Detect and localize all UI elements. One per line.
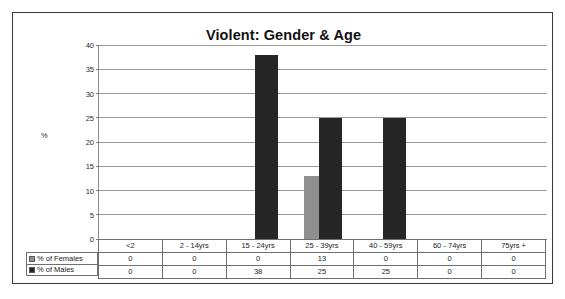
table-col-header-0: <2 (99, 240, 163, 253)
chart-legend: % of Females% of Males (26, 252, 98, 276)
ytick-label-10: 10 (86, 186, 94, 195)
table-cell-r0-c1: 0 (162, 253, 226, 266)
table-row: 00013000 (99, 253, 546, 266)
ytick-label-30: 30 (86, 89, 94, 98)
data-table-grid: <22 - 14yrs15 - 24yrs25 - 39yrs40 - 59yr… (98, 239, 546, 279)
ytick-mark-15 (96, 166, 99, 167)
legend-item-males: % of Males (26, 264, 98, 276)
legend-item-females: % of Females (26, 252, 98, 264)
ytick-mark-5 (96, 214, 99, 215)
table-cell-r1-c2: 38 (226, 266, 290, 279)
plot-inner: 4035302520151050 (99, 45, 546, 239)
gridline-35 (99, 69, 547, 70)
ytick-label-20: 20 (86, 138, 94, 147)
table-col-header-3: 25 - 39yrs (290, 240, 354, 253)
bar-male-4 (383, 118, 406, 239)
table-cell-r0-c3: 13 (290, 253, 354, 266)
ytick-mark-10 (96, 190, 99, 191)
table-row: 0038252500 (99, 266, 546, 279)
table-col-header-5: 60 - 74yrs (418, 240, 482, 253)
ytick-label-40: 40 (86, 41, 94, 50)
table-cell-r1-c0: 0 (99, 266, 163, 279)
ytick-mark-20 (96, 142, 99, 143)
bar-male-3 (319, 118, 342, 239)
table-cell-r0-c0: 0 (99, 253, 163, 266)
table-cell-r1-c1: 0 (162, 266, 226, 279)
table-cell-r0-c2: 0 (226, 253, 290, 266)
table-col-header-2: 15 - 24yrs (226, 240, 290, 253)
chart-title: Violent: Gender & Age (13, 27, 554, 43)
table-cell-r0-c6: 0 (482, 253, 546, 266)
gridline-40 (99, 45, 547, 46)
table-col-header-4: 40 - 59yrs (354, 240, 418, 253)
table-cell-r1-c3: 25 (290, 266, 354, 279)
table-cell-r1-c6: 0 (482, 266, 546, 279)
bar-male-2 (255, 55, 278, 239)
legend-label: % of Males (37, 265, 74, 275)
legend-swatch-icon (29, 256, 35, 262)
ytick-label-0: 0 (90, 235, 94, 244)
ytick-mark-30 (96, 93, 99, 94)
table-cell-r0-c5: 0 (418, 253, 482, 266)
ytick-mark-35 (96, 69, 99, 70)
data-table: <22 - 14yrs15 - 24yrs25 - 39yrs40 - 59yr… (98, 239, 546, 279)
legend-swatch-icon (29, 267, 35, 273)
legend-label: % of Females (37, 254, 83, 264)
ytick-label-5: 5 (90, 210, 94, 219)
data-table-body: <22 - 14yrs15 - 24yrs25 - 39yrs40 - 59yr… (99, 240, 546, 279)
ytick-mark-25 (96, 117, 99, 118)
ytick-label-15: 15 (86, 162, 94, 171)
bar-female-3 (304, 176, 319, 239)
table-cell-r1-c5: 0 (418, 266, 482, 279)
gridline-30 (99, 93, 547, 94)
y-axis-label: % (41, 131, 48, 140)
chart-frame: Violent: Gender & Age % 4035302520151050… (12, 12, 553, 284)
table-cell-r1-c4: 25 (354, 266, 418, 279)
table-col-header-1: 2 - 14yrs (162, 240, 226, 253)
table-cell-r0-c4: 0 (354, 253, 418, 266)
ytick-label-35: 35 (86, 65, 94, 74)
ytick-mark-40 (96, 45, 99, 46)
table-header-row: <22 - 14yrs15 - 24yrs25 - 39yrs40 - 59yr… (99, 240, 546, 253)
table-col-header-6: 75yrs + (482, 240, 546, 253)
plot-area: 4035302520151050 (98, 45, 546, 239)
ytick-label-25: 25 (86, 113, 94, 122)
